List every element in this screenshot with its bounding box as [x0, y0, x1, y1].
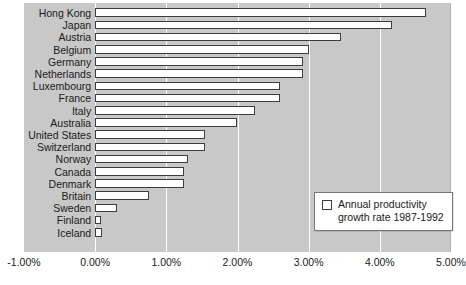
bar: [95, 179, 184, 188]
bar-row: Denmark: [24, 178, 450, 190]
bar: [95, 33, 341, 42]
legend-label: Annual productivity growth rate 1987-199…: [338, 198, 444, 224]
bar-row: Austria: [24, 31, 450, 43]
bar: [95, 155, 188, 164]
category-label: Italy: [72, 105, 91, 116]
legend: Annual productivity growth rate 1987-199…: [314, 192, 453, 231]
category-label: Finland: [57, 215, 91, 226]
x-tick-label: 1.00%: [151, 256, 181, 268]
bar-row: Luxembourg: [24, 80, 450, 92]
bar: [95, 21, 392, 30]
category-label: Luxembourg: [33, 81, 91, 92]
bar-row: Japan: [24, 19, 450, 31]
category-label: Australia: [50, 118, 91, 129]
x-tick-label: 2.00%: [223, 256, 253, 268]
bar-row: Belgium: [24, 44, 450, 56]
category-label: Sweden: [53, 203, 91, 214]
bar: [95, 8, 426, 17]
x-tick-label: 3.00%: [294, 256, 324, 268]
x-tick-label: 4.00%: [365, 256, 395, 268]
bar-row: United States: [24, 129, 450, 141]
bar: [95, 82, 280, 91]
bar: [95, 69, 303, 78]
category-label: Norway: [56, 154, 92, 165]
x-axis: -1.00%0.00%1.00%2.00%3.00%4.00%5.00%: [0, 256, 466, 276]
bar: [95, 204, 116, 213]
category-label: Switzerland: [37, 142, 91, 153]
category-label: Belgium: [53, 44, 91, 55]
bar: [95, 45, 309, 54]
bar-row: Switzerland: [24, 141, 450, 153]
category-label: Hong Kong: [39, 8, 92, 19]
category-label: Iceland: [57, 227, 91, 238]
category-label: France: [58, 93, 91, 104]
bar: [95, 118, 237, 127]
bar-row: Canada: [24, 166, 450, 178]
category-label: United States: [28, 130, 91, 141]
bar-row: Australia: [24, 117, 450, 129]
bar: [95, 191, 148, 200]
bar: [95, 94, 280, 103]
bar: [95, 130, 205, 139]
bar-row: Netherlands: [24, 68, 450, 80]
category-label: Britain: [61, 191, 91, 202]
bar: [95, 143, 205, 152]
bar: [95, 167, 184, 176]
x-tick-label: 5.00%: [436, 256, 466, 268]
productivity-bar-chart: Hong KongJapanAustriaBelgiumGermanyNethe…: [0, 0, 466, 285]
category-label: Austria: [58, 32, 91, 43]
bar-row: Hong Kong: [24, 7, 450, 19]
bar-row: Germany: [24, 56, 450, 68]
category-label: Germany: [48, 57, 91, 68]
bar: [95, 106, 255, 115]
bar: [95, 228, 102, 237]
x-tick-label: 0.00%: [80, 256, 110, 268]
legend-swatch-icon: [322, 200, 332, 210]
category-label: Canada: [54, 166, 91, 177]
bar-row: France: [24, 92, 450, 104]
bar: [95, 216, 101, 225]
bar: [95, 57, 303, 66]
category-label: Denmark: [49, 179, 92, 190]
bar-row: Italy: [24, 105, 450, 117]
bar-row: Norway: [24, 153, 450, 165]
category-label: Netherlands: [35, 69, 92, 80]
x-tick-label: -1.00%: [7, 256, 40, 268]
category-label: Japan: [63, 20, 92, 31]
